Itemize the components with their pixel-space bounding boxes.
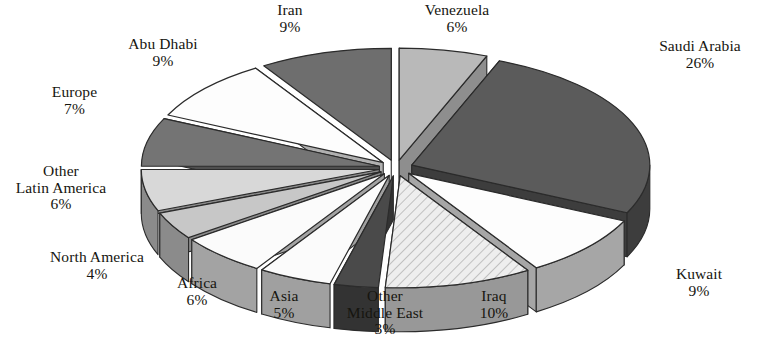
slice-label-africa: Africa 6% bbox=[156, 275, 238, 308]
slice-label-iran-name: Iran bbox=[235, 2, 345, 19]
slice-label-iraq-name: Iraq bbox=[455, 288, 533, 305]
slice-label-asia-pct: 5% bbox=[248, 305, 320, 322]
slice-label-asia-name: Asia bbox=[248, 288, 320, 305]
slice-label-other-middle-east-name2: Middle East bbox=[326, 305, 444, 322]
slice-label-africa-name: Africa bbox=[156, 275, 238, 292]
slice-label-north-america: North America 4% bbox=[32, 249, 162, 282]
pie-chart-figure: Venezuela 6%Iran 9%Abu Dhabi 9%Saudi Ara… bbox=[0, 0, 763, 350]
slice-label-other-middle-east-name: Other bbox=[326, 288, 444, 305]
slice-label-iran: Iran 9% bbox=[235, 2, 345, 35]
slice-label-iraq-pct: 10% bbox=[455, 305, 533, 322]
slice-label-europe: Europe 7% bbox=[27, 84, 122, 117]
slice-label-abu-dhabi: Abu Dhabi 9% bbox=[93, 36, 233, 69]
slice-label-other-middle-east-pct: 3% bbox=[326, 321, 444, 338]
slice-label-abu-dhabi-pct: 9% bbox=[93, 53, 233, 70]
slice-label-abu-dhabi-name: Abu Dhabi bbox=[93, 36, 233, 53]
slice-label-europe-name: Europe bbox=[27, 84, 122, 101]
slice-label-kuwait: Kuwait 9% bbox=[654, 266, 744, 299]
slice-label-saudi-arabia-name: Saudi Arabia bbox=[640, 38, 760, 55]
slice-label-iraq: Iraq 10% bbox=[455, 288, 533, 321]
slice-label-venezuela-pct: 6% bbox=[392, 19, 522, 36]
slice-label-north-america-name: North America bbox=[32, 249, 162, 266]
slice-label-iran-pct: 9% bbox=[235, 19, 345, 36]
slice-label-saudi-arabia: Saudi Arabia 26% bbox=[640, 38, 760, 71]
slice-label-other-latin-america: Other Latin America 6% bbox=[0, 163, 122, 213]
slice-label-asia: Asia 5% bbox=[248, 288, 320, 321]
slice-label-north-america-pct: 4% bbox=[32, 266, 162, 283]
slice-label-venezuela-name: Venezuela bbox=[392, 2, 522, 19]
slice-label-other-middle-east: Other Middle East 3% bbox=[326, 288, 444, 338]
slice-label-other-latin-america-pct: 6% bbox=[0, 196, 122, 213]
slice-label-other-latin-america-name: Other bbox=[0, 163, 122, 180]
slice-label-kuwait-pct: 9% bbox=[654, 283, 744, 300]
slice-label-kuwait-name: Kuwait bbox=[654, 266, 744, 283]
slice-label-other-latin-america-name2: Latin America bbox=[0, 180, 122, 197]
slice-label-africa-pct: 6% bbox=[156, 292, 238, 309]
slice-label-europe-pct: 7% bbox=[27, 101, 122, 118]
slice-label-venezuela: Venezuela 6% bbox=[392, 2, 522, 35]
slice-label-saudi-arabia-pct: 26% bbox=[640, 55, 760, 72]
